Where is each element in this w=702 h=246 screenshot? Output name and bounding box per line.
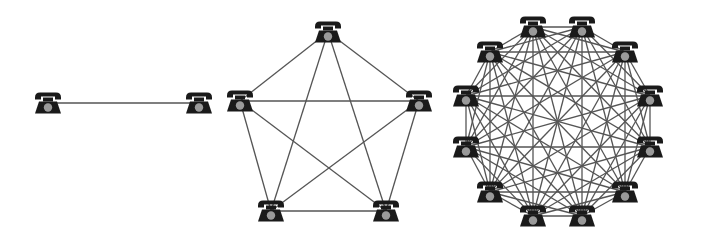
telephone-icon	[477, 42, 503, 63]
telephone-icon	[258, 201, 284, 222]
telephone-icon	[373, 201, 399, 222]
two-node-network-nodes	[35, 93, 212, 114]
fully-connected-network-diagram	[0, 0, 702, 246]
five-node-network-nodes	[227, 22, 432, 222]
telephone-icon	[453, 137, 479, 158]
telephone-icon	[612, 42, 638, 63]
telephone-icon	[520, 17, 546, 38]
twelve-node-network-nodes	[453, 17, 663, 227]
telephone-icon	[612, 182, 638, 203]
telephone-icon	[569, 17, 595, 38]
telephone-icon	[315, 22, 341, 43]
telephone-icon	[520, 206, 546, 227]
telephone-icon	[453, 86, 479, 107]
telephone-icon	[227, 91, 253, 112]
telephone-icon	[569, 206, 595, 227]
telephone-icon	[477, 182, 503, 203]
telephone-icon	[637, 137, 663, 158]
telephone-icon	[637, 86, 663, 107]
telephone-icon	[35, 93, 61, 114]
nodes-layer	[0, 0, 702, 246]
telephone-icon	[406, 91, 432, 112]
telephone-icon	[186, 93, 212, 114]
